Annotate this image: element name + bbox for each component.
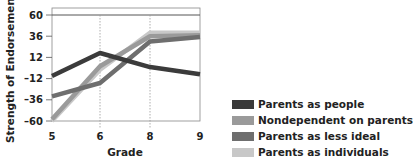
x-axis: 5689 <box>49 131 204 142</box>
y-tick-label: 60 <box>29 10 43 21</box>
legend-swatch-icon <box>232 132 254 141</box>
y-tick-label: –12 <box>24 73 43 84</box>
series-lines <box>52 33 200 121</box>
x-tick-label: 6 <box>97 131 104 142</box>
legend: Parents as people Nondependent on parent… <box>232 96 413 160</box>
legend-swatch-icon <box>232 100 254 109</box>
x-axis-title: Grade <box>107 146 143 158</box>
x-tick-label: 8 <box>147 131 154 142</box>
y-axis: 603612–12–36–60 <box>24 10 52 127</box>
legend-label: Parents as individuals <box>258 146 389 158</box>
legend-item-parents-as-individuals: Parents as individuals <box>232 144 413 160</box>
legend-label: Parents as less ideal <box>258 130 380 142</box>
y-axis-title: Strength of Endorsement <box>4 0 16 143</box>
y-tick-label: –36 <box>24 94 43 105</box>
y-tick-label: 12 <box>29 52 43 63</box>
legend-label: Nondependent on parents <box>258 114 413 126</box>
y-tick-label: 36 <box>29 31 43 42</box>
legend-swatch-icon <box>232 148 254 157</box>
legend-item-parents-as-less-ideal: Parents as less ideal <box>232 128 413 144</box>
x-tick-label: 5 <box>49 131 56 142</box>
legend-item-parents-as-people: Parents as people <box>232 96 413 112</box>
plot-frame <box>52 8 200 128</box>
legend-label: Parents as people <box>258 98 364 110</box>
x-tick-label: 9 <box>197 131 204 142</box>
legend-item-nondependent-on-parents: Nondependent on parents <box>232 112 413 128</box>
legend-swatch-icon <box>232 116 254 125</box>
series-line-parents-as-people <box>52 53 200 76</box>
y-tick-label: –60 <box>24 116 43 127</box>
series-line-parents-as-individuals <box>52 33 200 121</box>
